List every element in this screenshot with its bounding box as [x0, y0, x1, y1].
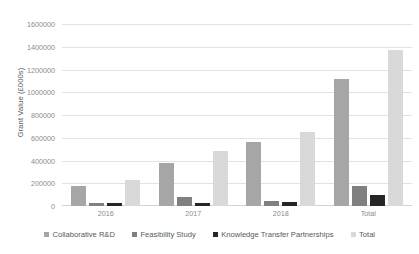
bar	[300, 132, 315, 206]
legend-swatch-icon	[132, 232, 137, 237]
legend-label: Knowledge Transfer Partnerships	[221, 230, 333, 239]
legend-swatch-icon	[44, 232, 49, 237]
legend-label: Collaborative R&D	[52, 230, 114, 239]
x-axis-tick-label: Total	[325, 209, 413, 218]
bar	[125, 180, 140, 206]
chart-legend: Collaborative R&DFeasibility StudyKnowle…	[0, 230, 419, 239]
legend-swatch-icon	[213, 232, 218, 237]
y-axis-tick-labels: 0200000400000600000800000100000012000001…	[0, 24, 58, 206]
bar	[159, 163, 174, 206]
bar	[177, 197, 192, 206]
bar	[264, 201, 279, 206]
y-axis-tick-label: 1600000	[27, 20, 55, 29]
bar	[388, 50, 403, 206]
legend-swatch-icon	[351, 232, 356, 237]
bar	[282, 202, 297, 206]
y-axis-tick-label: 1000000	[27, 88, 55, 97]
legend-label: Feasibility Study	[140, 230, 195, 239]
bar	[89, 203, 104, 206]
bar	[213, 151, 228, 206]
bar-group	[150, 24, 238, 206]
y-axis-tick-label: 1400000	[27, 42, 55, 51]
legend-label: Total	[359, 230, 375, 239]
y-axis-tick-label: 800000	[31, 111, 55, 120]
x-axis-tick-label: 2017	[150, 209, 238, 218]
x-axis-tick-label: 2018	[237, 209, 325, 218]
legend-item[interactable]: Feasibility Study	[132, 230, 196, 239]
y-axis-tick-label: 600000	[31, 133, 55, 142]
y-axis-tick-label: 400000	[31, 156, 55, 165]
bar	[352, 186, 367, 206]
bar-group	[62, 24, 150, 206]
y-axis-tick-label: 200000	[31, 179, 55, 188]
x-axis-tick-label: 2016	[62, 209, 150, 218]
legend-item[interactable]: Knowledge Transfer Partnerships	[213, 230, 334, 239]
bar-chart: Grant Value (£000s) 02000004000006000008…	[0, 0, 419, 254]
bar	[71, 186, 86, 206]
x-axis-tick-labels: 201620172018Total	[62, 209, 412, 218]
y-axis-tick-label: 0	[51, 202, 55, 211]
bar	[246, 142, 261, 206]
y-axis-tick-label: 1200000	[27, 65, 55, 74]
bar	[107, 203, 122, 206]
legend-item[interactable]: Collaborative R&D	[44, 230, 115, 239]
bar	[195, 203, 210, 206]
bar	[334, 79, 349, 206]
bar-groups	[62, 24, 412, 206]
legend-item[interactable]: Total	[351, 230, 376, 239]
bar-group	[325, 24, 413, 206]
bar-group	[237, 24, 325, 206]
bar	[370, 195, 385, 206]
